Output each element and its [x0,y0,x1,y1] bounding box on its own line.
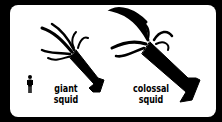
squid-silhouettes [10,5,216,117]
colossal-squid-label-line1: colossal [131,83,171,94]
colossal-squid-label-line2: squid [131,94,171,105]
giant-squid-label: giant squid [50,83,82,105]
giant-squid-label-line1: giant [50,83,82,94]
colossal-squid-label: colossal squid [131,83,171,105]
giant-squid-icon [42,24,104,92]
human-icon [27,75,33,93]
diagram-panel: giant squid colossal squid [10,5,216,117]
giant-squid-label-line2: squid [50,94,82,105]
